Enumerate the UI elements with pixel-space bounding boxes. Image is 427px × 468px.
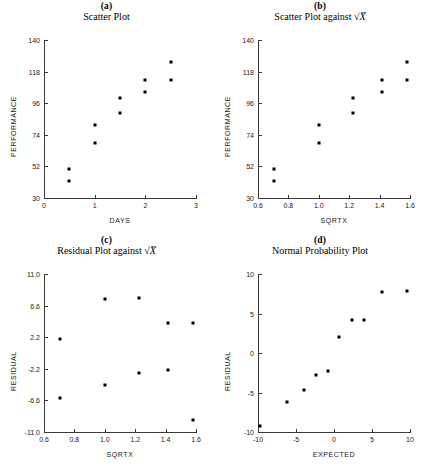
y-axis-tick-label: 118	[214, 68, 254, 75]
y-axis-label: PERFORMANCE	[10, 96, 17, 157]
y-axis-tick-label: 74	[214, 131, 254, 138]
figure-grid: (a)Scatter Plot305274961181400123DAYSPER…	[0, 0, 427, 468]
data-point	[68, 179, 71, 182]
data-point	[352, 97, 355, 100]
y-axis-tick-label: 11.0	[0, 271, 40, 278]
x-axis-tick	[196, 429, 197, 433]
data-point	[351, 318, 354, 321]
y-axis-tick-label: 2.2	[0, 334, 40, 341]
x-axis-tick-label: 1.2	[130, 436, 140, 443]
x-axis-tick-label: 0.6	[253, 202, 263, 209]
y-axis-tick-label: 10	[214, 271, 254, 278]
panel-title-text: Scatter Plot	[83, 11, 129, 22]
panel-title-text: Normal Probability Plot	[272, 245, 368, 256]
plot-panel-a: (a)Scatter Plot305274961181400123DAYSPER…	[0, 0, 213, 234]
x-axis-tick-label: 1.2	[344, 202, 354, 209]
x-axis-tick	[95, 195, 96, 199]
y-axis-tick	[44, 400, 48, 401]
data-point	[144, 79, 147, 82]
y-axis-tick-label: -5	[214, 389, 254, 396]
x-axis-tick	[44, 429, 45, 433]
x-axis-label: SQRTX	[321, 217, 348, 224]
y-axis-label: PERFORMANCE	[224, 96, 231, 157]
x-axis-tick-label: 1.6	[405, 202, 415, 209]
y-axis-tick-label: 118	[0, 68, 40, 75]
x-axis-tick-label: 0	[332, 436, 336, 443]
data-point	[138, 296, 141, 299]
data-point	[119, 112, 122, 115]
x-axis-label: EXPECTED	[313, 451, 356, 458]
data-point	[380, 90, 383, 93]
y-axis-tick-label: 5	[214, 310, 254, 317]
x-axis-tick	[196, 195, 197, 199]
y-axis-tick-label: 96	[0, 100, 40, 107]
x-axis-tick-label: 1.4	[375, 202, 385, 209]
data-point	[192, 321, 195, 324]
y-axis-label: RESIDUAL	[10, 351, 17, 391]
x-axis-tick-label: 1	[93, 202, 97, 209]
x-axis-tick-label: 0.8	[70, 436, 80, 443]
panel-title: Scatter Plot against √X̅	[213, 12, 427, 23]
y-axis-tick-label: 52	[0, 163, 40, 170]
data-point	[285, 400, 288, 403]
panel-title-text: Scatter Plot against	[274, 11, 351, 22]
x-axis-tick	[166, 429, 167, 433]
x-axis-tick	[74, 429, 75, 433]
data-point	[59, 396, 62, 399]
data-point	[338, 336, 341, 339]
data-point	[406, 60, 409, 63]
y-axis-tick-label: 52	[214, 163, 254, 170]
y-axis-tick	[258, 166, 262, 167]
data-point	[169, 79, 172, 82]
data-point	[258, 425, 261, 428]
panel-title-block: (c)Residual Plot against √X̅	[0, 236, 213, 256]
y-axis-tick	[44, 337, 48, 338]
y-axis-tick-label: 140	[0, 37, 40, 44]
y-axis-tick	[44, 306, 48, 307]
data-point	[405, 290, 408, 293]
x-axis-tick	[44, 195, 45, 199]
y-axis-tick	[258, 353, 262, 354]
plot-panel-d: (d)Normal Probability Plot-10-50510-10-5…	[213, 234, 427, 468]
y-axis-tick	[44, 274, 48, 275]
x-axis-tick-label: 0.8	[284, 202, 294, 209]
x-axis-tick-label: 1.6	[191, 436, 201, 443]
x-axis-line	[44, 432, 196, 433]
x-axis-tick	[288, 195, 289, 199]
x-axis-tick-label: 0	[42, 202, 46, 209]
x-axis-tick-label: 3	[194, 202, 198, 209]
x-axis-tick	[349, 195, 350, 199]
x-axis-tick-label: -5	[293, 436, 299, 443]
data-point	[93, 142, 96, 145]
panel-title: Scatter Plot	[0, 12, 213, 23]
data-point	[380, 79, 383, 82]
y-axis-tick-label: 140	[214, 37, 254, 44]
plot-panel-c: (c)Residual Plot against √X̅-11.0-6.6-2.…	[0, 234, 213, 468]
plot-area: 305274961181400.60.81.01.21.41.6SQRTXPER…	[258, 40, 410, 198]
panel-title-block: (d)Normal Probability Plot	[213, 236, 427, 256]
y-axis-tick-label: -11.0	[0, 429, 40, 436]
data-point	[119, 97, 122, 100]
data-point	[68, 167, 71, 170]
y-axis-tick-label: 6.6	[0, 302, 40, 309]
y-axis-tick	[44, 40, 48, 41]
data-point	[169, 60, 172, 63]
y-axis-tick-label: -10	[214, 429, 254, 436]
data-point	[273, 167, 276, 170]
data-point	[314, 374, 317, 377]
x-axis-tick	[296, 429, 297, 433]
y-axis-tick-label: -2.2	[0, 365, 40, 372]
sqrt-x-symbol: √X̅	[142, 245, 156, 256]
y-axis-tick	[258, 40, 262, 41]
x-axis-tick-label: -10	[253, 436, 263, 443]
y-axis-tick-label: -6.6	[0, 397, 40, 404]
y-axis-tick-label: 0	[214, 350, 254, 357]
data-point	[103, 298, 106, 301]
x-axis-tick	[410, 195, 411, 199]
data-point	[103, 383, 106, 386]
x-axis-tick	[372, 429, 373, 433]
data-point	[326, 370, 329, 373]
data-point	[302, 389, 305, 392]
y-axis-line	[258, 40, 259, 198]
x-axis-tick-label: 1.0	[314, 202, 324, 209]
